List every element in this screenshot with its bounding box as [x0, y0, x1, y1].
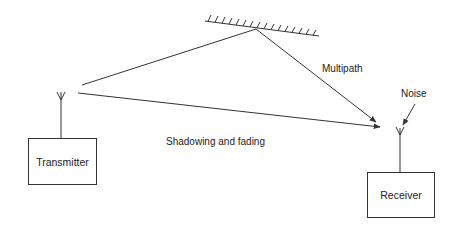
transmitter-box: Transmitter	[28, 138, 97, 185]
transmitter-antenna-icon	[57, 92, 65, 138]
reflector-surface	[205, 15, 319, 36]
multipath-arrow	[256, 29, 376, 122]
shadowing-label: Shadowing and fading	[166, 137, 265, 147]
path-to-reflector	[82, 29, 256, 85]
receiver-label: Receiver	[380, 189, 421, 201]
receiver-box: Receiver	[367, 172, 435, 218]
direct-path-arrow	[78, 93, 380, 127]
transmitter-label: Transmitter	[36, 156, 89, 168]
reflector-hatching	[208, 15, 316, 35]
multipath-label: Multipath	[322, 64, 363, 74]
noise-arrow	[403, 104, 415, 125]
noise-label: Noise	[401, 89, 427, 99]
receiver-antenna-icon	[396, 127, 404, 172]
